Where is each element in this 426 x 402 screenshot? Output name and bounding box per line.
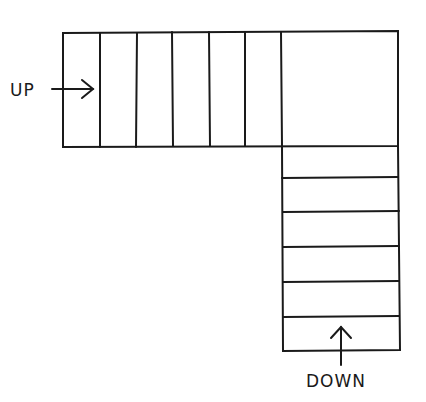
tread-line <box>209 32 210 146</box>
tread-line <box>283 281 399 282</box>
stair-plan-diagram: UP DOWN <box>0 0 426 402</box>
tread-line <box>283 316 399 317</box>
tread-line <box>136 33 137 147</box>
tread-line <box>172 32 173 146</box>
tread-line <box>282 177 398 178</box>
tread-line <box>283 246 399 247</box>
landing-edge <box>281 32 282 146</box>
up-arrow-icon <box>52 80 93 98</box>
tread-line <box>283 211 399 212</box>
down-label: DOWN <box>306 371 366 391</box>
upper-flight-treads <box>100 32 282 147</box>
upper-flight-outline <box>63 31 398 147</box>
lower-flight-treads <box>282 177 399 317</box>
down-arrow-icon <box>331 327 351 365</box>
up-label: UP <box>10 80 35 100</box>
